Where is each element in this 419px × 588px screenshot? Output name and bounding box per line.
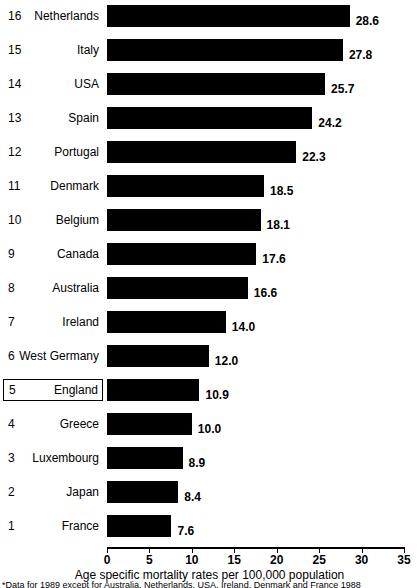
bar: [107, 5, 350, 27]
chart-row: 16Netherlands28.6: [0, 5, 419, 37]
bar: [107, 515, 171, 537]
category-label: 1France: [3, 515, 103, 537]
axis-tick-label: 15: [228, 554, 241, 566]
chart-row: 12Portugal22.3: [0, 141, 419, 173]
bar: [107, 447, 183, 469]
country-name: Portugal: [54, 146, 99, 158]
category-label: 4Greece: [3, 413, 103, 435]
country-name: Belgium: [56, 214, 99, 226]
category-label: 10Belgium: [3, 209, 103, 231]
country-name: Australia: [52, 282, 99, 294]
category-label: 13Spain: [3, 107, 103, 129]
country-name: Netherlands: [34, 10, 99, 22]
chart-row: 2Japan8.4: [0, 481, 419, 513]
bar: [107, 39, 343, 61]
axis-tick: [107, 547, 108, 553]
country-name: France: [62, 520, 99, 532]
chart-row: 13Spain24.2: [0, 107, 419, 139]
category-label: 2Japan: [3, 481, 103, 503]
chart-row: 8Australia16.6: [0, 277, 419, 309]
bar: [107, 413, 192, 435]
rank-number: 15: [8, 44, 21, 56]
chart-row: 5England10.9: [0, 379, 419, 411]
rank-number: 10: [8, 214, 21, 226]
chart-row: 3Luxembourg8.9: [0, 447, 419, 479]
axis-tick: [234, 547, 235, 553]
chart-footnote: *Data for 1989 except for Australia, Net…: [2, 581, 419, 588]
axis-tick: [362, 547, 363, 553]
axis-tick: [319, 547, 320, 553]
category-label: 3Luxembourg: [3, 447, 103, 469]
bar: [107, 345, 209, 367]
axis-line: [107, 547, 404, 549]
country-name: Denmark: [50, 180, 99, 192]
category-label: 8Australia: [3, 277, 103, 299]
chart-row: 6West Germany12.0: [0, 345, 419, 377]
axis-tick-label: 20: [270, 554, 283, 566]
chart-row: 14USA25.7: [0, 73, 419, 105]
category-label: 16Netherlands: [3, 5, 103, 27]
rank-number: 6: [8, 350, 15, 362]
category-label: 9Canada: [3, 243, 103, 265]
axis-tick-label: 25: [312, 554, 325, 566]
country-name: Japan: [66, 486, 99, 498]
bar-value-label: 25.7: [331, 83, 354, 95]
bar-value-label: 18.1: [267, 219, 290, 231]
rank-number: 1: [8, 520, 15, 532]
rank-number: 8: [8, 282, 15, 294]
category-label: 14USA: [3, 73, 103, 95]
bar: [107, 379, 199, 401]
bar-value-label: 10.0: [198, 423, 221, 435]
bar-value-label: 8.9: [189, 457, 206, 469]
bar: [107, 243, 256, 265]
bar-value-label: 22.3: [302, 151, 325, 163]
bar: [107, 209, 261, 231]
bar-value-label: 7.6: [177, 525, 194, 537]
axis-tick-label: 5: [146, 554, 153, 566]
axis-tick: [404, 547, 405, 553]
axis-tick-label: 35: [397, 554, 410, 566]
axis-tick-label: 0: [104, 554, 111, 566]
country-name: Ireland: [62, 316, 99, 328]
bar: [107, 481, 178, 503]
rank-number: 2: [8, 486, 15, 498]
axis-tick: [192, 547, 193, 553]
bar-value-label: 17.6: [262, 253, 285, 265]
bar-value-label: 27.8: [349, 49, 372, 61]
chart-row: 4Greece10.0: [0, 413, 419, 445]
rank-number: 14: [8, 78, 21, 90]
rank-number: 16: [8, 10, 21, 22]
bar: [107, 73, 325, 95]
bar: [107, 141, 296, 163]
bar: [107, 311, 226, 333]
chart-row: 9Canada17.6: [0, 243, 419, 275]
bar-value-label: 8.4: [184, 491, 201, 503]
country-name: West Germany: [19, 350, 99, 362]
rank-number: 11: [8, 180, 20, 192]
axis-tick: [149, 547, 150, 553]
bar: [107, 107, 312, 129]
rank-number: 5: [9, 384, 16, 396]
country-name: Luxembourg: [32, 452, 99, 464]
country-name: Spain: [68, 112, 99, 124]
country-name: Greece: [60, 418, 99, 430]
rank-number: 9: [8, 248, 15, 260]
chart-row: 15Italy27.8: [0, 39, 419, 71]
country-name: Canada: [57, 248, 99, 260]
bar-value-label: 24.2: [318, 117, 341, 129]
category-label: 7Ireland: [3, 311, 103, 333]
category-label: 12Portugal: [3, 141, 103, 163]
chart-row: 11Denmark18.5: [0, 175, 419, 207]
bar-chart: 16Netherlands28.615Italy27.814USA25.713S…: [0, 0, 419, 588]
category-label: 15Italy: [3, 39, 103, 61]
country-name: Italy: [77, 44, 99, 56]
axis-tick: [277, 547, 278, 553]
rank-number: 7: [8, 316, 15, 328]
rank-number: 13: [8, 112, 21, 124]
axis-title: Age specific mortality rates per 100,000…: [0, 569, 419, 581]
axis-tick-label: 30: [355, 554, 368, 566]
country-name: England: [54, 384, 98, 396]
chart-row: 7Ireland14.0: [0, 311, 419, 343]
highlighted-category-label: 5England: [3, 379, 103, 401]
bar-value-label: 16.6: [254, 287, 277, 299]
